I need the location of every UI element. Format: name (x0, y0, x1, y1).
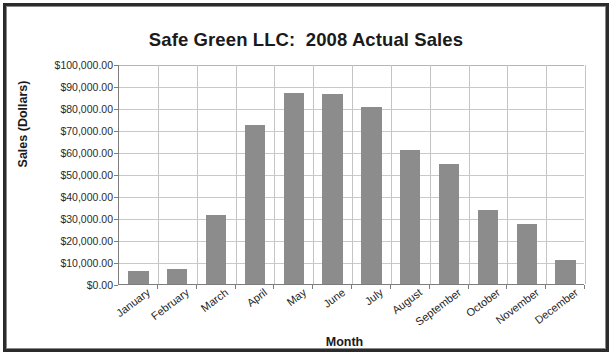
x-axis-tick-label: January (114, 286, 152, 319)
y-axis-tick-label: $100,000.00 (13, 59, 113, 71)
chart-title: Safe Green LLC: 2008 Actual Sales (7, 29, 605, 51)
bar (322, 94, 342, 284)
bar (245, 125, 265, 285)
x-axis-tick-label: February (149, 286, 191, 322)
x-axis-tick-label: November (493, 286, 541, 326)
y-axis-tick-label: $40,000.00 (13, 191, 113, 203)
x-axis-tick-mark (584, 285, 585, 289)
gridline-vertical (197, 65, 198, 284)
y-axis-tick-label: $60,000.00 (13, 147, 113, 159)
bar (206, 215, 226, 284)
bar (555, 260, 575, 284)
y-axis-tick-label: $50,000.00 (13, 169, 113, 181)
gridline-vertical (585, 65, 586, 284)
y-axis-tick-label: $90,000.00 (13, 81, 113, 93)
gridline-vertical (158, 65, 159, 284)
gridline-vertical (274, 65, 275, 284)
x-axis-tick-label: April (244, 286, 269, 309)
gridline-vertical (313, 65, 314, 284)
bar (400, 150, 420, 284)
bar (167, 269, 187, 284)
y-axis-tick-label: $30,000.00 (13, 213, 113, 225)
gridline-vertical (546, 65, 547, 284)
x-axis-tick-label: March (199, 286, 231, 314)
bar (128, 271, 148, 284)
gridline-vertical (469, 65, 470, 284)
chart-frame: Safe Green LLC: 2008 Actual Sales Sales … (3, 3, 609, 352)
x-axis-tick-label: August (390, 286, 425, 316)
y-axis-tick-label: $10,000.00 (13, 257, 113, 269)
x-axis-tick-labels: JanuaryFebruaryMarchAprilMayJuneJulyAugu… (118, 286, 584, 334)
x-axis-tick-label: June (321, 286, 347, 310)
gridline-vertical (507, 65, 508, 284)
gridline-vertical (352, 65, 353, 284)
gridline-vertical (236, 65, 237, 284)
y-axis-tick-label: $70,000.00 (13, 125, 113, 137)
x-axis-title: Month (117, 335, 572, 349)
gridline-vertical (430, 65, 431, 284)
x-axis-tick-label: July (363, 286, 386, 307)
bar (478, 210, 498, 284)
bar (284, 93, 304, 284)
gridline-vertical (391, 65, 392, 284)
y-axis-tick-labels: $100,000.00$90,000.00$80,000.00$70,000.0… (12, 65, 113, 285)
y-axis-tick-label: $80,000.00 (13, 103, 113, 115)
y-axis-tick-label: $0.00 (13, 279, 113, 291)
plot-area (118, 65, 584, 285)
bar (361, 107, 381, 284)
x-axis-tick-label: May (284, 286, 308, 308)
bar (439, 164, 459, 284)
chart-inner-border: Safe Green LLC: 2008 Actual Sales Sales … (6, 6, 606, 349)
bar (517, 224, 537, 285)
y-axis-tick-label: $20,000.00 (13, 235, 113, 247)
